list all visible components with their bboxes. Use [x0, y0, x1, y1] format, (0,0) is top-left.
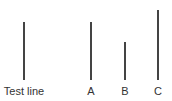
test-line-label: Test line [4, 85, 44, 97]
line-b-label: B [121, 85, 128, 97]
line-b [124, 42, 126, 80]
line-a [90, 22, 92, 80]
test-line [23, 22, 25, 80]
line-c-label: C [154, 85, 162, 97]
line-a-label: A [87, 85, 94, 97]
line-c [157, 10, 159, 80]
